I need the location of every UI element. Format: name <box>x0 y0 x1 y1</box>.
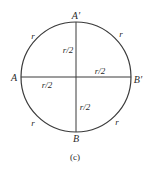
point-label-a-prime: A′ <box>71 10 81 21</box>
arc-label-top-left: r <box>31 31 35 41</box>
arc-label-bottom-right: r <box>115 117 119 127</box>
segment-label-lower-vertical: r/2 <box>80 102 91 112</box>
segment-label-left-horizontal: r/2 <box>42 80 53 90</box>
point-label-b-prime: B′ <box>134 74 143 85</box>
figure-caption: (c) <box>70 152 80 162</box>
segment-label-upper-vertical: r/2 <box>63 45 74 55</box>
circle-diagram: A′ A B′ B r r r r r/2 r/2 r/2 r/2 (c) <box>0 0 149 169</box>
arc-label-bottom-left: r <box>31 118 35 128</box>
point-label-a: A <box>10 72 18 83</box>
arc-label-top-right: r <box>119 29 123 39</box>
point-label-b: B <box>73 133 79 144</box>
segment-label-right-horizontal: r/2 <box>95 66 106 76</box>
